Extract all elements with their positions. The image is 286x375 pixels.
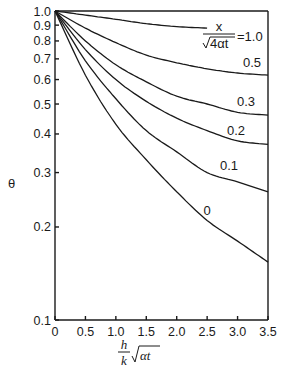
y-tick-label: 0.2 — [34, 220, 51, 234]
curve-1-0 — [55, 11, 207, 28]
curve-label-0: 0 — [203, 203, 210, 218]
param-equals: =1.0 — [237, 29, 263, 44]
y-tick-label: 1.0 — [34, 5, 51, 19]
x-tick-label: 3.0 — [229, 325, 246, 339]
y-tick-label: 0.4 — [34, 127, 51, 141]
curve-label-0-2: 0.2 — [227, 123, 245, 138]
x-title-radicand: αt — [140, 348, 151, 363]
param-denominator: 4αt — [210, 36, 229, 51]
x-tick-label: 0 — [52, 325, 59, 339]
curve-label-0-1: 0.1 — [220, 158, 238, 173]
x-tick-label: 2.0 — [168, 325, 185, 339]
x-tick-label: 2.5 — [198, 325, 215, 339]
chart: 0.10.20.30.40.50.60.70.80.91.000.51.01.5… — [0, 0, 286, 375]
x-title-denominator: k — [121, 353, 127, 368]
x-axis-title: hkαt — [118, 337, 160, 368]
x-title-numerator: h — [121, 337, 128, 352]
y-tick-label: 0.3 — [34, 166, 51, 180]
y-tick-label: 0.8 — [34, 34, 51, 48]
y-tick-label: 0.5 — [34, 98, 51, 112]
curve-label-0-5: 0.5 — [243, 55, 261, 70]
x-tick-label: 0.5 — [77, 325, 94, 339]
param-numerator: x — [216, 19, 223, 34]
y-tick-label: 0.1 — [34, 314, 51, 328]
y-tick-label: 0.9 — [34, 19, 51, 33]
x-tick-label: 3.5 — [259, 325, 276, 339]
x-tick-label: 1.5 — [138, 325, 155, 339]
parameter-label: x4αt=1.0 — [203, 19, 263, 51]
y-tick-label: 0.6 — [34, 73, 51, 87]
y-axis-title: θ — [8, 176, 15, 191]
curve-label-0-3: 0.3 — [237, 94, 255, 109]
y-tick-label: 0.7 — [34, 52, 51, 66]
